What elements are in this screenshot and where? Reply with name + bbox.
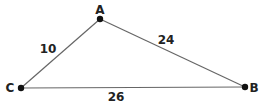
- vertex-a-label: A: [95, 3, 105, 17]
- vertex-b-label: B: [249, 81, 258, 95]
- edge-ac: [21, 19, 100, 88]
- vertex-b-point: [242, 84, 248, 90]
- edge-cb-length: 26: [108, 90, 125, 104]
- vertex-c-point: [18, 85, 24, 91]
- edge-ac-length: 10: [40, 42, 57, 56]
- edge-ab-length: 24: [158, 33, 175, 47]
- edge-ab: [100, 19, 245, 87]
- triangle-diagram: A B C 10 24 26: [0, 0, 272, 109]
- edge-cb: [21, 87, 245, 88]
- vertex-c-label: C: [6, 81, 15, 95]
